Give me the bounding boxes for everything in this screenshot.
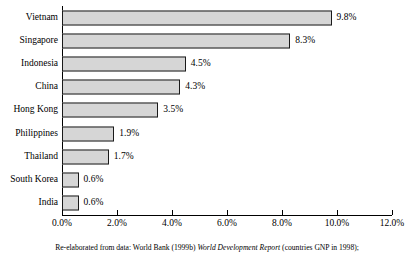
bar-value-label: 0.6% xyxy=(84,175,104,185)
x-axis-tick-label: 0.0% xyxy=(52,219,72,229)
chart-caption: Re-elaborated from data: World Bank (199… xyxy=(0,244,414,252)
category-label: India xyxy=(38,199,58,209)
bar-value-label: 4.5% xyxy=(191,59,211,69)
bar xyxy=(62,103,158,118)
bar-chart: Vietnam9.8%Singapore8.3%Indonesia4.5%Chi… xyxy=(0,0,414,260)
category-label: Singapore xyxy=(19,36,58,46)
bar xyxy=(62,173,79,188)
x-axis-tick-label: 10.0% xyxy=(325,219,350,229)
bar-row: China4.3% xyxy=(62,76,392,99)
bar xyxy=(62,196,79,211)
x-axis-tick xyxy=(227,210,228,215)
bar-row: Singapore8.3% xyxy=(62,29,392,52)
caption-italic-title: World Development Report xyxy=(197,243,280,252)
category-label: Philippines xyxy=(15,129,58,139)
x-axis-tick xyxy=(337,210,338,215)
x-axis-tick-label: 2.0% xyxy=(107,219,127,229)
bar xyxy=(62,126,114,141)
x-axis-tick-label: 6.0% xyxy=(217,219,237,229)
category-label: China xyxy=(35,83,58,93)
bar xyxy=(62,57,186,72)
caption-part2: (countries GNP in 1998); xyxy=(280,243,359,252)
x-axis-tick xyxy=(172,210,173,215)
bar-row: Hong Kong3.5% xyxy=(62,99,392,122)
bar-row: Vietnam9.8% xyxy=(62,6,392,29)
bar-row: Thailand1.7% xyxy=(62,145,392,168)
x-axis-tick xyxy=(392,210,393,215)
bar-row: South Korea0.6% xyxy=(62,169,392,192)
bar-value-label: 3.5% xyxy=(163,106,183,116)
plot-area: Vietnam9.8%Singapore8.3%Indonesia4.5%Chi… xyxy=(62,6,392,215)
x-axis-tick-label: 4.0% xyxy=(162,219,182,229)
x-axis-tick xyxy=(62,210,63,215)
x-axis-tick-label: 8.0% xyxy=(272,219,292,229)
bar-value-label: 4.3% xyxy=(185,83,205,93)
bar-value-label: 0.6% xyxy=(84,199,104,209)
bar xyxy=(62,149,109,164)
category-label: Thailand xyxy=(24,152,58,162)
category-label: South Korea xyxy=(10,175,58,185)
bar-value-label: 9.8% xyxy=(337,13,357,23)
bar xyxy=(62,33,290,48)
bar xyxy=(62,80,180,95)
bar-value-label: 1.7% xyxy=(114,152,134,162)
x-axis-tick-label: 12.0% xyxy=(380,219,405,229)
bar-row: Indonesia4.5% xyxy=(62,52,392,75)
x-axis-line xyxy=(62,215,392,216)
caption-part1: Re-elaborated from data: World Bank (199… xyxy=(55,243,197,252)
bar-value-label: 8.3% xyxy=(295,36,315,46)
bar-row: Philippines1.9% xyxy=(62,122,392,145)
x-axis-tick xyxy=(117,210,118,215)
category-label: Indonesia xyxy=(21,59,58,69)
category-label: Vietnam xyxy=(26,13,58,23)
bar xyxy=(62,10,332,25)
x-axis-tick xyxy=(282,210,283,215)
category-label: Hong Kong xyxy=(13,106,58,116)
bar-value-label: 1.9% xyxy=(119,129,139,139)
